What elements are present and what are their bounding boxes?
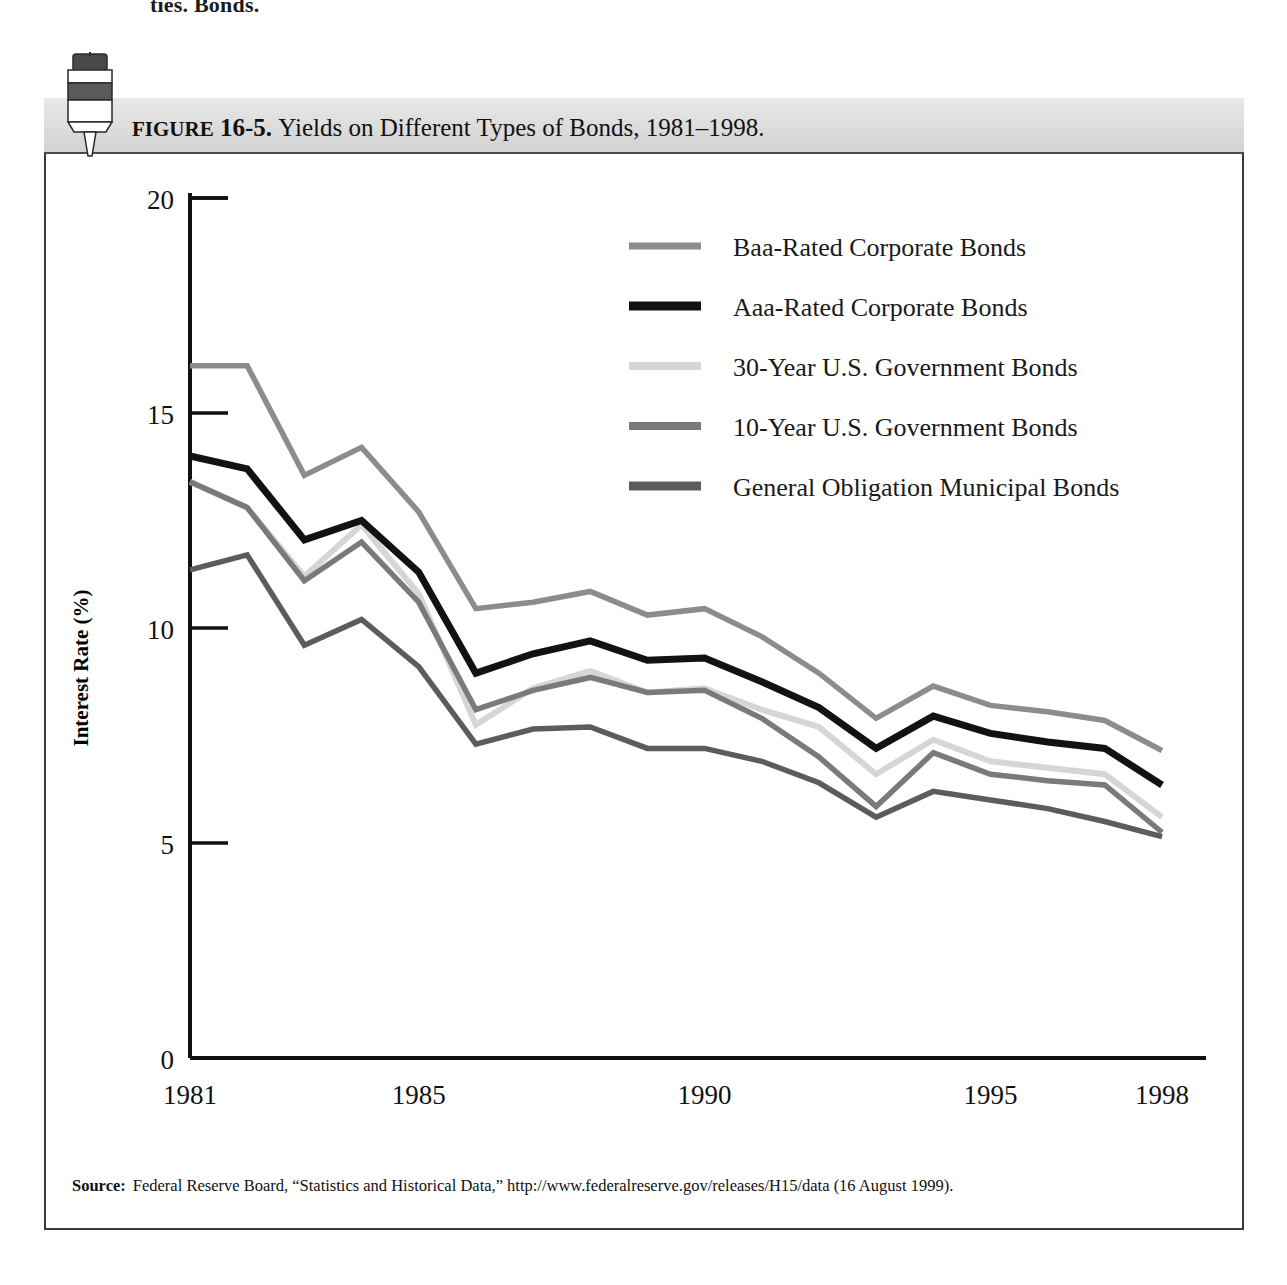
y-tick-label: 15 [147,400,174,430]
source-label: Source: [72,1176,126,1195]
y-tick-label: 10 [147,615,174,645]
x-tick-label: 1985 [392,1080,446,1110]
legend-label: 30-Year U.S. Government Bonds [733,353,1078,382]
x-tick-label: 1995 [963,1080,1017,1110]
legend-label: Aaa-Rated Corporate Bonds [733,293,1028,322]
figure-title: FIGURE 16-5. Yields on Different Types o… [132,108,764,148]
figure-page: ties. Bonds. FIGURE 16-5. Yields on Diff… [0,0,1287,1285]
legend-label: General Obligation Municipal Bonds [733,473,1119,502]
bond-yields-line-chart: 0510152019811985199019951998 Baa-Rated C… [44,154,1244,1114]
legend-label: Baa-Rated Corporate Bonds [733,233,1026,262]
figure-source-note: Source:Federal Reserve Board, “Statistic… [72,1176,1212,1204]
figure-word: FIGURE [132,117,214,141]
figure-number: 16-5. [220,114,272,141]
x-tick-label: 1998 [1135,1080,1189,1110]
x-tick-label: 1981 [163,1080,217,1110]
chart-plot-area: 0510152019811985199019951998 Baa-Rated C… [44,154,1244,1114]
series-line [190,456,1162,785]
binder-clip-icon [62,52,118,164]
series-line [190,555,1162,837]
y-axis-title: Interest Rate (%) [69,589,93,746]
page-top-text-fragment: ties. Bonds. [150,0,259,18]
legend-label: 10-Year U.S. Government Bonds [733,413,1078,442]
y-tick-label: 0 [161,1045,175,1075]
y-tick-label: 20 [147,185,174,215]
y-tick-label: 5 [161,830,175,860]
figure-title-text: Yields on Different Types of Bonds, 1981… [278,114,764,141]
source-text: Federal Reserve Board, “Statistics and H… [133,1176,953,1195]
chart-legend: Baa-Rated Corporate BondsAaa-Rated Corpo… [629,233,1119,502]
x-tick-label: 1990 [678,1080,732,1110]
